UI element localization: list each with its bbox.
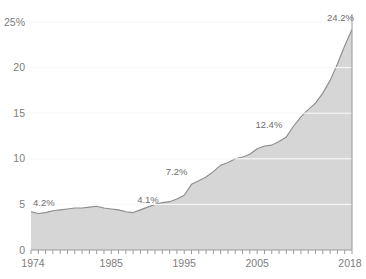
chart-canvas: 25%20151050 19741985199520052018 4.2%4.1… — [0, 0, 366, 279]
x-tick-label-1974: 1974 — [21, 257, 45, 269]
y-axis-tick-labels: 25%20151050 — [4, 16, 25, 256]
data-label-12-4pct: 12.4% — [255, 119, 282, 130]
x-tick-label-1985: 1985 — [100, 257, 124, 269]
y-tick-label-25: 25% — [4, 16, 25, 28]
y-tick-label-15: 15 — [13, 107, 25, 119]
data-label-24-2pct: 24.2% — [327, 12, 354, 23]
x-axis-tick-labels: 19741985199520052018 — [21, 257, 362, 269]
x-tick-label-1995: 1995 — [173, 257, 197, 269]
area-fill-path — [31, 29, 352, 250]
x-axis-tick-marks — [31, 250, 352, 254]
y-tick-label-10: 10 — [13, 152, 25, 164]
data-label-4-1pct: 4.1% — [137, 194, 159, 205]
x-tick-label-2005: 2005 — [245, 257, 269, 269]
y-tick-label-5: 5 — [19, 198, 25, 210]
y-tick-label-20: 20 — [13, 61, 25, 73]
y-tick-label-0: 0 — [19, 244, 25, 256]
data-label-4-2pct: 4.2% — [33, 197, 55, 208]
area-chart: 25%20151050 19741985199520052018 4.2%4.1… — [0, 0, 366, 279]
area-series — [31, 29, 352, 250]
x-tick-label-2018: 2018 — [338, 257, 362, 269]
data-label-7-2pct: 7.2% — [166, 166, 188, 177]
